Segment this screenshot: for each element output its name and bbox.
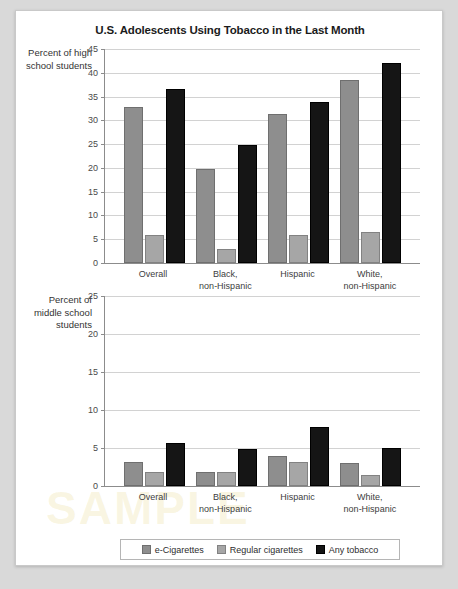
bar-ecig xyxy=(124,462,143,486)
y-axis-tick-label: 25 xyxy=(88,291,98,301)
gridline xyxy=(105,215,420,216)
y-axis-title-high-school: Percent of high school students xyxy=(24,47,92,72)
legend-item-any: Any tobacco xyxy=(316,545,379,555)
bar-any xyxy=(238,449,257,486)
bar-reg xyxy=(289,235,308,263)
bar-any xyxy=(382,63,401,263)
y-axis-title-middle-school: Percent of middle school students xyxy=(24,294,92,332)
bar-any xyxy=(238,145,257,263)
gridline xyxy=(105,49,420,50)
gridline xyxy=(105,334,420,335)
bar-ecig xyxy=(268,456,287,486)
y-axis-tick xyxy=(101,73,105,74)
y-axis-tick-label: 15 xyxy=(88,367,98,377)
y-axis-tick-label: 20 xyxy=(88,329,98,339)
gridline xyxy=(105,73,420,74)
bar-reg xyxy=(217,249,236,263)
y-axis-tick xyxy=(101,168,105,169)
bar-ecig xyxy=(196,472,215,486)
bar-ecig xyxy=(340,463,359,486)
bar-reg xyxy=(145,235,164,263)
gridline xyxy=(105,144,420,145)
bar-reg xyxy=(361,475,380,486)
bar-ecig xyxy=(340,80,359,263)
bar-any xyxy=(382,448,401,486)
legend-swatch-icon xyxy=(142,545,151,554)
y-axis-tick-label: 40 xyxy=(88,68,98,78)
x-axis-group-label: White, non-Hispanic xyxy=(325,269,415,292)
legend-item-ecig: e-Cigarettes xyxy=(142,545,204,555)
y-axis-tick-label: 10 xyxy=(88,405,98,415)
y-axis-tick-label: 5 xyxy=(93,443,98,453)
plot-area-middle-school: 0510152025 xyxy=(104,296,420,487)
legend-label: e-Cigarettes xyxy=(155,545,204,555)
gridline xyxy=(105,168,420,169)
gridline xyxy=(105,296,420,297)
y-axis-tick xyxy=(101,448,105,449)
bar-any xyxy=(166,89,185,263)
legend-label: Any tobacco xyxy=(329,545,379,555)
y-axis-tick xyxy=(101,120,105,121)
y-axis-tick xyxy=(101,486,105,487)
gridline xyxy=(105,192,420,193)
y-axis-tick xyxy=(101,334,105,335)
y-axis-tick xyxy=(101,263,105,264)
y-axis-tick-label: 20 xyxy=(88,163,98,173)
y-axis-tick xyxy=(101,192,105,193)
y-axis-tick-label: 0 xyxy=(93,258,98,268)
legend-label: Regular cigarettes xyxy=(230,545,303,555)
plot-area-high-school: 051015202530354045 xyxy=(104,49,420,264)
y-axis-tick xyxy=(101,296,105,297)
legend-item-reg: Regular cigarettes xyxy=(217,545,303,555)
legend-swatch-icon xyxy=(316,545,325,554)
gridline xyxy=(105,372,420,373)
bar-any xyxy=(310,427,329,486)
y-axis-tick xyxy=(101,239,105,240)
legend-swatch-icon xyxy=(217,545,226,554)
y-axis-tick xyxy=(101,372,105,373)
bar-any xyxy=(310,102,329,263)
y-axis-tick-label: 5 xyxy=(93,234,98,244)
chart-title: U.S. Adolescents Using Tobacco in the La… xyxy=(16,24,443,36)
y-axis-tick-label: 35 xyxy=(88,92,98,102)
bar-ecig xyxy=(268,114,287,263)
y-axis-tick-label: 0 xyxy=(93,481,98,491)
figure-card: SAMPLE U.S. Adolescents Using Tobacco in… xyxy=(15,10,443,566)
bar-ecig xyxy=(124,107,143,263)
y-axis-tick xyxy=(101,97,105,98)
y-axis-tick-label: 25 xyxy=(88,139,98,149)
bar-reg xyxy=(361,232,380,263)
y-axis-tick-label: 10 xyxy=(88,210,98,220)
gridline xyxy=(105,448,420,449)
y-axis-tick-label: 30 xyxy=(88,115,98,125)
y-axis-tick-label: 45 xyxy=(88,44,98,54)
y-axis-tick xyxy=(101,215,105,216)
bar-reg xyxy=(145,472,164,486)
bar-reg xyxy=(289,462,308,486)
y-axis-tick xyxy=(101,410,105,411)
chart-legend: e-CigarettesRegular cigarettesAny tobacc… xyxy=(120,539,400,560)
gridline xyxy=(105,410,420,411)
bar-ecig xyxy=(196,169,215,263)
gridline xyxy=(105,120,420,121)
x-axis-group-label: White, non-Hispanic xyxy=(325,492,415,515)
y-axis-tick xyxy=(101,144,105,145)
y-axis-tick-label: 15 xyxy=(88,187,98,197)
gridline xyxy=(105,97,420,98)
y-axis-tick xyxy=(101,49,105,50)
bar-reg xyxy=(217,472,236,486)
bar-any xyxy=(166,443,185,486)
